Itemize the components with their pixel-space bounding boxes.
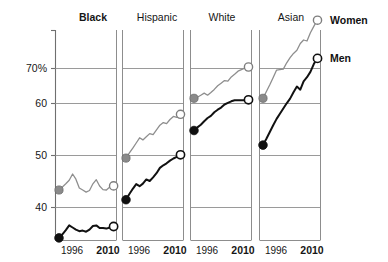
series-women-asian: [263, 20, 321, 98]
panel-title-asian: Asian: [278, 11, 304, 23]
x-tick-label-start-white: 1996: [196, 245, 219, 256]
panel-asian: Asian 1996 2010: [259, 11, 324, 256]
series-men-asian: [263, 58, 321, 145]
panel-hispanic: Hispanic 1996 2010: [122, 11, 187, 256]
legend-label-women: Women: [330, 14, 368, 26]
marker-start-men-hispanic: [122, 195, 131, 204]
series-men-black: [59, 225, 117, 238]
series-men-white: [194, 100, 252, 131]
x-tick-label-end-black: 2010: [96, 244, 120, 256]
marker-start-men-white: [190, 126, 199, 135]
marker-start-men-asian: [259, 141, 268, 150]
marker-end-women-black: [110, 182, 118, 190]
y-tick-label-40: 40: [35, 201, 47, 213]
small-multiples-chart: 70% 60 50 40 Black 1996 2: [0, 0, 388, 262]
series-men-hispanic: [126, 155, 184, 200]
marker-start-women-asian: [259, 94, 267, 102]
x-tick-label-start-hispanic: 1996: [128, 245, 151, 256]
x-tick-label-end-hispanic: 2010: [163, 244, 187, 256]
marker-end-women-white: [244, 63, 252, 71]
marker-end-men-white: [244, 96, 252, 104]
y-axis-group: 70% 60 50 40: [26, 30, 56, 240]
panel-title-white: White: [209, 11, 236, 23]
marker-start-women-white: [190, 94, 198, 102]
series-women-black: [59, 174, 117, 192]
marker-end-men-hispanic: [176, 151, 184, 159]
y-tick-label-50: 50: [35, 149, 47, 161]
legend: Women Men: [330, 14, 368, 64]
x-tick-label-end-white: 2010: [231, 244, 255, 256]
panel-title-hispanic: Hispanic: [137, 11, 177, 23]
marker-end-women-asian: [313, 16, 321, 24]
marker-start-men-black: [55, 234, 64, 243]
x-tick-label-start-black: 1996: [61, 245, 84, 256]
marker-start-women-black: [55, 186, 63, 194]
chart-svg: 70% 60 50 40 Black 1996 2: [0, 0, 388, 262]
marker-end-men-asian: [313, 54, 321, 62]
panel-white: White 1996 2010: [190, 11, 255, 256]
legend-label-men: Men: [330, 52, 351, 64]
x-tick-label-start-asian: 1996: [265, 245, 288, 256]
panel-title-black: Black: [79, 11, 107, 23]
panel-black: Black 1996 2010: [55, 11, 120, 256]
marker-start-women-hispanic: [122, 154, 130, 162]
y-tick-label-70: 70%: [26, 62, 47, 74]
series-women-hispanic: [126, 114, 184, 158]
x-tick-label-end-asian: 2010: [300, 244, 324, 256]
y-tick-label-60: 60: [35, 97, 47, 109]
series-women-white: [194, 67, 252, 98]
marker-end-women-hispanic: [176, 110, 184, 118]
marker-end-men-black: [110, 222, 118, 230]
